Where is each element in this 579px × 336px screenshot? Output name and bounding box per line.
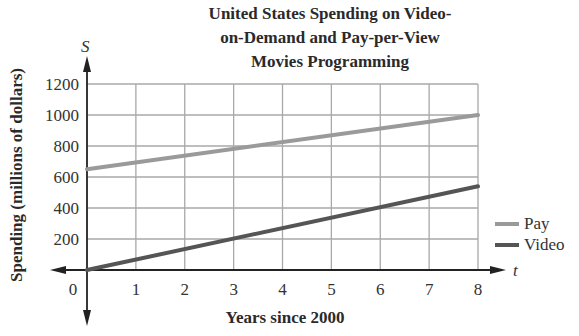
- x-tick-label: 0: [69, 280, 78, 299]
- chart-plot: tS01234567820040060080010001200: [0, 0, 579, 336]
- x-tick-label: 7: [425, 280, 434, 299]
- legend-label-pay: Pay: [524, 214, 550, 234]
- legend-swatch-pay: [495, 222, 519, 226]
- x-tick-label: 3: [229, 280, 238, 299]
- y-tick-label: 1000: [45, 106, 79, 125]
- x-axis-variable: t: [513, 261, 519, 280]
- x-tick-label: 1: [132, 280, 141, 299]
- x-tick-label: 2: [181, 280, 190, 299]
- y-tick-label: 400: [54, 199, 80, 218]
- legend-item-video: Video: [495, 234, 565, 255]
- y-tick-label: 1200: [45, 75, 79, 94]
- x-tick-label: 4: [278, 280, 287, 299]
- x-axis-label: Years since 2000: [185, 308, 385, 328]
- y-tick-label: 200: [54, 230, 80, 249]
- y-axis-arrow-down: [83, 310, 91, 326]
- legend: Pay Video: [495, 213, 565, 255]
- legend-label-video: Video: [524, 235, 565, 255]
- y-axis-variable: S: [81, 37, 90, 56]
- y-tick-label: 800: [54, 137, 80, 156]
- y-axis-label: Spending (millions of dollars): [7, 60, 27, 290]
- x-tick-label: 5: [327, 280, 336, 299]
- x-tick-label: 8: [474, 280, 483, 299]
- x-tick-label: 6: [376, 280, 385, 299]
- y-tick-label: 600: [54, 168, 80, 187]
- legend-swatch-video: [495, 243, 519, 247]
- x-axis-arrow-right: [490, 266, 506, 274]
- y-axis-arrow-up: [83, 56, 91, 72]
- legend-item-pay: Pay: [495, 213, 565, 234]
- x-axis-arrow-left: [50, 266, 66, 274]
